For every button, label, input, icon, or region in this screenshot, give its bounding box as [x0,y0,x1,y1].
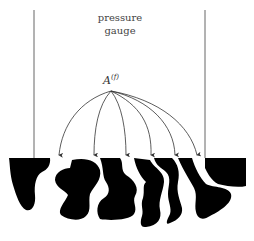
arrow-5 [111,91,175,155]
node-label-main: A [103,74,111,87]
pressure-gauge-label: pressure gauge [90,11,150,37]
arrows [59,91,197,155]
grain-3 [97,158,136,220]
arrow-1 [59,91,111,155]
arrow-3 [111,91,126,155]
grain-left [9,158,50,210]
grain-4 [134,158,164,227]
node-label-a: A(f) [96,71,126,87]
arrow-2 [94,91,111,155]
grain-right [205,158,246,187]
grains [9,158,246,227]
node-label-superscript: (f) [111,73,119,81]
label-line-2: gauge [90,24,150,37]
grain-2 [55,159,100,220]
label-line-1: pressure [90,11,150,24]
diagram-canvas: pressure gauge A(f) [0,0,254,241]
